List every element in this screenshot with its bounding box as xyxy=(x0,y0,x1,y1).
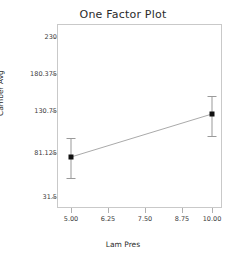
plot-area xyxy=(57,24,222,208)
y-tick-mark xyxy=(52,74,57,75)
x-tick-label: 6.25 xyxy=(101,215,115,223)
x-tick-mark xyxy=(145,208,146,213)
x-tick-mark xyxy=(212,208,213,213)
x-tick-mark xyxy=(182,208,183,213)
y-tick-mark xyxy=(52,37,57,38)
x-tick-label: 8.75 xyxy=(175,215,189,223)
y-tick-mark xyxy=(52,111,57,112)
x-tick-mark xyxy=(71,208,72,213)
y-tick-mark xyxy=(52,153,57,154)
x-tick-label: 7.50 xyxy=(138,215,152,223)
x-axis-title: Lam Pres xyxy=(0,240,246,249)
chart-title: One Factor Plot xyxy=(0,8,246,21)
x-tick-label: 5.00 xyxy=(64,215,78,223)
x-tick-mark xyxy=(108,208,109,213)
y-tick-mark xyxy=(52,197,57,198)
one-factor-plot-figure: One Factor Plot Camber Avg Lam Pres 230 … xyxy=(0,0,246,260)
y-axis-title: Camber Avg xyxy=(0,70,5,116)
x-tick-label: 10.00 xyxy=(203,215,222,223)
